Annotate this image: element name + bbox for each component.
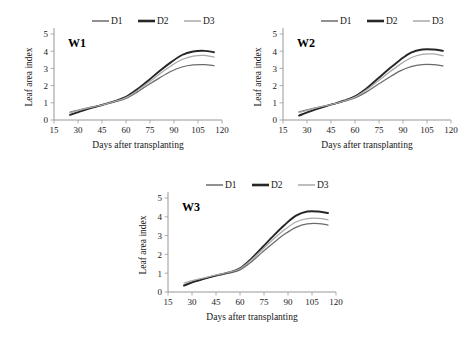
legend-item-d1: D1	[206, 180, 237, 190]
y-tick-label: 5	[158, 193, 163, 203]
series-line-d2	[184, 211, 328, 285]
legend-label-d1: D1	[225, 180, 237, 190]
y-axis-title: Leaf area index	[138, 215, 148, 274]
y-tick-label: 0	[44, 115, 49, 125]
x-tick-label: 75	[146, 125, 156, 135]
legend-item-d3: D3	[184, 16, 215, 26]
legend-label-d3: D3	[432, 16, 444, 26]
y-tick-label: 5	[44, 29, 49, 39]
y-tick-label: 5	[273, 29, 278, 39]
y-tick-label: 3	[44, 64, 49, 74]
y-tick-label: 3	[273, 64, 278, 74]
chart-panel-w2: D1D2D3012345153045607590105120Days after…	[243, 8, 458, 168]
x-tick-label: 90	[170, 125, 180, 135]
x-tick-label: 15	[279, 125, 289, 135]
x-tick-label: 15	[164, 297, 174, 307]
series-line-d3	[184, 218, 328, 283]
y-tick-label: 1	[273, 98, 278, 108]
x-tick-label: 105	[305, 297, 319, 307]
y-tick-label: 4	[158, 212, 163, 222]
legend-label-d1: D1	[340, 16, 352, 26]
x-tick-label: 75	[260, 297, 270, 307]
x-tick-label: 60	[122, 125, 132, 135]
caption-fragment	[0, 331, 461, 345]
legend-item-d1: D1	[92, 16, 123, 26]
y-axis-title: Leaf area index	[253, 47, 263, 106]
y-axis-title: Leaf area index	[24, 47, 34, 106]
x-tick-label: 120	[444, 125, 458, 135]
x-tick-label: 30	[74, 125, 84, 135]
legend-item-d2: D2	[252, 180, 283, 190]
y-tick-label: 0	[158, 287, 163, 297]
legend-label-d3: D3	[203, 16, 215, 26]
y-tick-label: 4	[273, 47, 278, 57]
x-tick-label: 75	[375, 125, 385, 135]
x-tick-label: 30	[303, 125, 313, 135]
series-line-d2	[70, 51, 214, 115]
x-tick-label: 45	[327, 125, 337, 135]
y-tick-label: 2	[273, 81, 278, 91]
x-axis-title: Days after transplanting	[206, 312, 298, 322]
legend-label-d1: D1	[111, 16, 123, 26]
panel-label: W1	[68, 36, 86, 50]
legend-item-d1: D1	[321, 16, 352, 26]
chart-panel-w3: D1D2D3012345153045607590105120Days after…	[128, 172, 343, 340]
y-tick-label: 0	[273, 115, 278, 125]
chart-svg-w1: D1D2D3012345153045607590105120Days after…	[14, 8, 229, 168]
chart-svg-w3: D1D2D3012345153045607590105120Days after…	[128, 172, 343, 340]
series-line-d1	[70, 65, 214, 113]
y-tick-label: 1	[44, 98, 49, 108]
legend-label-d2: D2	[386, 16, 398, 26]
series-line-d2	[299, 49, 443, 115]
figure-leaf-area-index: D1D2D3012345153045607590105120Days after…	[0, 0, 461, 345]
chart-svg-w2: D1D2D3012345153045607590105120Days after…	[243, 8, 458, 168]
y-tick-label: 2	[158, 250, 163, 260]
series-line-d1	[299, 64, 443, 112]
x-tick-label: 30	[188, 297, 198, 307]
x-tick-label: 105	[420, 125, 434, 135]
x-tick-label: 45	[212, 297, 222, 307]
x-tick-label: 120	[215, 125, 229, 135]
legend-label-d2: D2	[271, 180, 283, 190]
y-tick-label: 3	[158, 231, 163, 241]
x-tick-label: 60	[351, 125, 361, 135]
legend-item-d3: D3	[413, 16, 444, 26]
x-tick-label: 60	[236, 297, 246, 307]
legend-item-d2: D2	[367, 16, 398, 26]
y-tick-label: 2	[44, 81, 49, 91]
x-axis-title: Days after transplanting	[321, 140, 413, 150]
x-tick-label: 15	[50, 125, 60, 135]
series-line-d3	[70, 55, 214, 113]
x-axis-title: Days after transplanting	[92, 140, 184, 150]
x-tick-label: 90	[284, 297, 294, 307]
x-tick-label: 90	[399, 125, 409, 135]
y-tick-label: 1	[158, 269, 163, 279]
series-line-d3	[299, 54, 443, 113]
y-tick-label: 4	[44, 47, 49, 57]
legend-label-d3: D3	[317, 180, 329, 190]
legend-label-d2: D2	[157, 16, 169, 26]
x-tick-label: 45	[98, 125, 108, 135]
panel-label: W3	[182, 200, 200, 214]
x-tick-label: 105	[191, 125, 205, 135]
legend-item-d3: D3	[298, 180, 329, 190]
x-tick-label: 120	[329, 297, 343, 307]
panel-label: W2	[297, 36, 315, 50]
legend-item-d2: D2	[138, 16, 169, 26]
chart-panel-w1: D1D2D3012345153045607590105120Days after…	[14, 8, 229, 168]
